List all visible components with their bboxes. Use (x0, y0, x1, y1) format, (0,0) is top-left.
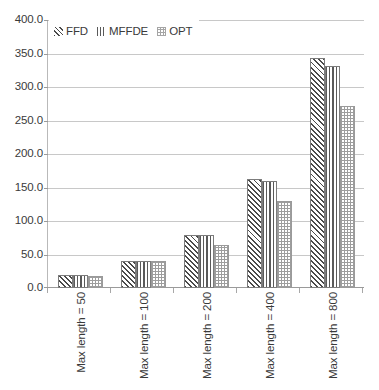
bar-group (184, 20, 237, 288)
bar-group (58, 20, 111, 288)
y-tick-label: 250.0 (15, 115, 43, 127)
y-tick-label: 100.0 (15, 215, 43, 227)
x-axis: Max length = 50 Max length = 100 Max len… (47, 292, 363, 390)
bar-ffd (310, 58, 325, 288)
legend: FFD MFFDE OPT (49, 20, 199, 42)
y-tick-label: 350.0 (15, 48, 43, 60)
bar-groups (48, 20, 364, 288)
bar-ffd (247, 179, 262, 288)
legend-item-mffde: MFFDE (97, 25, 148, 37)
bar-opt (88, 276, 103, 288)
y-tick-label: 150.0 (15, 182, 43, 194)
legend-item-opt: OPT (157, 25, 192, 37)
legend-swatch-vertical-lines-icon (97, 27, 106, 36)
y-tick-label: 50.0 (21, 249, 43, 261)
y-axis: 400.0 350.0 300.0 250.0 200.0 150.0 100.… (0, 0, 46, 390)
bar-ffd (121, 261, 136, 288)
bar-opt (214, 245, 229, 288)
bar-mffde (199, 235, 214, 288)
bar-group (247, 20, 300, 288)
bar-mffde (73, 275, 88, 288)
bar-mffde (136, 261, 151, 288)
y-tick-label: 400.0 (15, 14, 43, 26)
x-tick-label: Max length = 100 (138, 292, 150, 388)
y-tick-label: 0.0 (27, 282, 43, 294)
bar-mffde (325, 66, 340, 288)
legend-label: MFFDE (109, 25, 148, 37)
bar-chart: 400.0 350.0 300.0 250.0 200.0 150.0 100.… (0, 0, 379, 390)
x-tick-label: Max length = 50 (75, 292, 87, 388)
legend-item-ffd: FFD (54, 25, 88, 37)
bar-opt (277, 201, 292, 288)
x-tick-label: Max length = 200 (201, 292, 213, 388)
x-tick-label: Max length = 800 (327, 292, 339, 388)
bar-group (121, 20, 174, 288)
legend-label: OPT (169, 25, 192, 37)
legend-swatch-checker-icon (157, 27, 166, 36)
bar-ffd (184, 235, 199, 288)
legend-label: FFD (66, 25, 88, 37)
bar-mffde (262, 181, 277, 288)
bar-opt (151, 261, 166, 288)
bar-group (310, 20, 363, 288)
bar-opt (340, 106, 355, 288)
y-tick-label: 300.0 (15, 81, 43, 93)
x-tick-label: Max length = 400 (264, 292, 276, 388)
y-tick-label: 200.0 (15, 148, 43, 160)
plot-area (47, 20, 364, 288)
legend-swatch-hatch-icon (54, 27, 63, 36)
bar-ffd (58, 275, 73, 288)
